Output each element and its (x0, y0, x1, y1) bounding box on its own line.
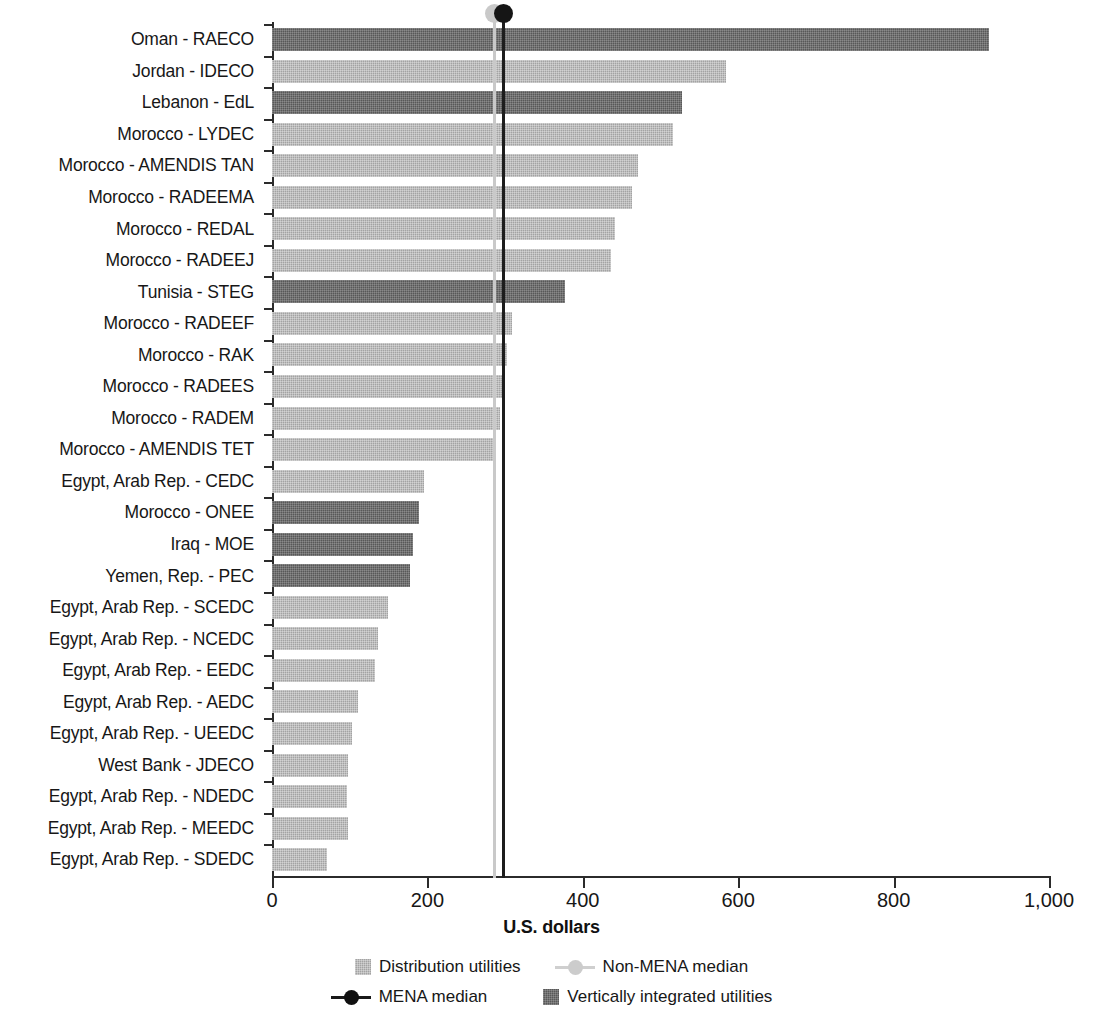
y-axis-label: Egypt, Arab Rep. - NDEDC (0, 781, 264, 813)
bar[interactable] (272, 60, 726, 83)
x-axis-tick (583, 878, 585, 888)
bar[interactable] (272, 186, 632, 209)
y-axis-ticks (264, 24, 272, 876)
bar[interactable] (272, 690, 358, 713)
x-axis-tick (738, 878, 740, 888)
x-axis-tick (427, 878, 429, 888)
y-axis-label: Morocco - REDAL (0, 213, 264, 245)
y-axis-label: Jordan - IDECO (0, 56, 264, 88)
legend-row-bottom: MENA medianVertically integrated utiliti… (0, 982, 1103, 1012)
bar-chart: Oman - RAECOJordan - IDECOLebanon - EdLM… (0, 0, 1103, 1031)
bar[interactable] (272, 754, 348, 777)
bar[interactable] (272, 312, 512, 335)
y-axis-label: Egypt, Arab Rep. - NCEDC (0, 623, 264, 655)
bar-rows (272, 24, 1049, 876)
bar[interactable] (272, 343, 507, 366)
bar[interactable] (272, 123, 673, 146)
y-axis-category-labels: Oman - RAECOJordan - IDECOLebanon - EdLM… (0, 24, 264, 876)
y-axis-label: Lebanon - EdL (0, 87, 264, 119)
bar[interactable] (272, 596, 388, 619)
x-axis-tick-label: 200 (411, 889, 444, 912)
y-axis-label: Egypt, Arab Rep. - SDEDC (0, 844, 264, 876)
legend-row-top: Distribution utilitiesNon-MENA median (0, 952, 1103, 982)
y-axis-tick (264, 750, 272, 752)
x-axis-tick-label: 1,000 (1024, 889, 1074, 912)
bar[interactable] (272, 848, 327, 871)
y-axis-tick (264, 87, 272, 89)
y-axis-label: Egypt, Arab Rep. - EEDC (0, 655, 264, 687)
bar-row (272, 371, 1049, 403)
bar[interactable] (272, 627, 378, 650)
bar[interactable] (272, 722, 352, 745)
bar[interactable] (272, 785, 347, 808)
bar-row (272, 781, 1049, 813)
legend-item-label: MENA median (379, 987, 488, 1007)
bar-row (272, 560, 1049, 592)
bar[interactable] (272, 438, 493, 461)
x-axis-tick-label: 800 (877, 889, 910, 912)
legend-item-label: Vertically integrated utilities (567, 987, 772, 1007)
bar-row (272, 308, 1049, 340)
legend-marker-dot-icon (568, 960, 583, 975)
legend-item[interactable]: Non-MENA median (555, 957, 749, 977)
y-axis-label: Iraq - MOE (0, 529, 264, 561)
y-axis-label: Morocco - AMENDIS TAN (0, 150, 264, 182)
bar[interactable] (272, 470, 424, 493)
legend-item-label: Non-MENA median (603, 957, 749, 977)
y-axis-tick (264, 529, 272, 531)
y-axis-label: Morocco - RAK (0, 339, 264, 371)
y-axis-tick (264, 813, 272, 815)
y-axis-label: West Bank - JDECO (0, 750, 264, 782)
legend-line-marker-icon (555, 959, 595, 975)
x-axis-tick (272, 878, 274, 888)
bar-row (272, 623, 1049, 655)
y-axis-label: Egypt, Arab Rep. - CEDC (0, 466, 264, 498)
x-axis-tick (1049, 878, 1051, 888)
legend-swatch-icon (355, 959, 371, 975)
bar[interactable] (272, 659, 375, 682)
y-axis-tick (264, 340, 272, 342)
x-axis-tick-label: 400 (566, 889, 599, 912)
x-axis-tick-labels: 02004006008001,000 (0, 889, 1103, 917)
median-marker-mena (494, 4, 513, 23)
bar[interactable] (272, 375, 504, 398)
x-axis-tick-label: 600 (722, 889, 755, 912)
y-axis-tick (264, 276, 272, 278)
y-axis-label: Tunisia - STEG (0, 276, 264, 308)
cropped-caption-sliver (180, 0, 600, 9)
bar[interactable] (272, 817, 348, 840)
bar-row (272, 245, 1049, 277)
y-axis-tick (264, 844, 272, 846)
bar[interactable] (272, 564, 410, 587)
legend-item[interactable]: Distribution utilities (355, 957, 521, 977)
legend-item-label: Distribution utilities (379, 957, 521, 977)
y-axis-tick (264, 497, 272, 499)
y-axis-tick (264, 213, 272, 215)
legend-item[interactable]: Vertically integrated utilities (543, 987, 772, 1007)
bar[interactable] (272, 91, 682, 114)
bar[interactable] (272, 407, 500, 430)
y-axis-tick (264, 150, 272, 152)
bar[interactable] (272, 154, 638, 177)
bar-row (272, 182, 1049, 214)
bar[interactable] (272, 501, 419, 524)
x-axis-title: U.S. dollars (0, 917, 1103, 938)
legend-line-marker-icon (331, 989, 371, 1005)
bar[interactable] (272, 533, 413, 556)
legend-item[interactable]: MENA median (331, 987, 488, 1007)
bar-row (272, 466, 1049, 498)
legend-marker-dot-icon (344, 990, 359, 1005)
y-axis-label: Morocco - RADEEJ (0, 245, 264, 277)
bar[interactable] (272, 217, 615, 240)
y-axis-tick (264, 24, 272, 26)
bar-row (272, 592, 1049, 624)
y-axis-tick (264, 687, 272, 689)
bar[interactable] (272, 28, 989, 51)
y-axis-label: Oman - RAECO (0, 24, 264, 56)
bar-row (272, 150, 1049, 182)
y-axis-label: Egypt, Arab Rep. - UEEDC (0, 718, 264, 750)
y-axis-tick (264, 371, 272, 373)
bar[interactable] (272, 249, 611, 272)
y-axis-label: Egypt, Arab Rep. - AEDC (0, 686, 264, 718)
bar[interactable] (272, 280, 565, 303)
